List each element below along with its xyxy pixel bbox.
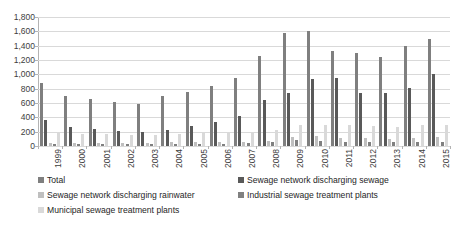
bar [287, 93, 290, 146]
bar-group [135, 17, 159, 146]
x-axis-tick-label: 2015 [442, 149, 451, 168]
bar-group [208, 17, 232, 146]
bar [408, 88, 411, 146]
bar [44, 120, 47, 146]
bar-group [426, 17, 450, 146]
bar [238, 116, 241, 146]
bar-group [183, 17, 207, 146]
bar [49, 143, 52, 146]
bar [202, 132, 205, 146]
y-axis-tick-label: 1,200 [1, 56, 35, 65]
bar [379, 57, 382, 146]
x-axis-tick-label: 2010 [321, 149, 330, 168]
y-axis-tick-label: 400 [1, 113, 35, 122]
bar [126, 144, 129, 146]
bar [137, 104, 140, 146]
legend-item[interactable]: Sewage network discharging rainwater [38, 191, 195, 200]
y-axis-tick-mark [35, 117, 38, 118]
bar [412, 138, 415, 146]
legend-item-label: Sewage network discharging sewage [247, 176, 389, 185]
bar [113, 102, 116, 146]
bar [81, 134, 84, 146]
legend-swatch-icon [238, 177, 244, 183]
bar [396, 127, 399, 146]
legend-item[interactable]: Industrial sewage treatment plants [238, 191, 378, 200]
bar [73, 143, 76, 146]
y-axis-tick-mark [35, 31, 38, 32]
chart-legend: TotalSewage network discharging sewageSe… [0, 176, 463, 222]
bar [53, 144, 56, 146]
bar [315, 136, 318, 146]
x-axis-tick-mark [305, 146, 306, 149]
x-axis-tick-mark [135, 146, 136, 149]
bar [93, 129, 96, 146]
y-axis-tick-label: 1,800 [1, 13, 35, 22]
bar-group [62, 17, 86, 146]
bar-group [402, 17, 426, 146]
legend-item-label: Industrial sewage treatment plants [247, 191, 378, 200]
bar [368, 142, 371, 146]
bar [198, 144, 201, 146]
bar [251, 132, 254, 146]
x-axis-tick-mark [86, 146, 87, 149]
x-axis: 1999200020012002200320042005200620072008… [38, 149, 450, 175]
gridline [38, 146, 450, 147]
y-axis-tick-label: 1,400 [1, 41, 35, 50]
legend-item-label: Total [47, 176, 65, 185]
x-axis-tick-mark [450, 146, 451, 149]
bar [441, 142, 444, 146]
bar [263, 100, 266, 146]
bar-group [111, 17, 135, 146]
x-axis-tick-mark [159, 146, 160, 149]
bar [178, 134, 181, 146]
bar [445, 125, 448, 147]
y-axis-tick-label: 0 [1, 142, 35, 151]
bar [64, 96, 67, 146]
bar [324, 125, 327, 147]
x-axis-tick-mark [256, 146, 257, 149]
legend-swatch-icon [38, 192, 44, 198]
bar [331, 51, 334, 146]
bars-layer [38, 17, 450, 146]
bar [299, 125, 302, 146]
x-axis-tick-mark [183, 146, 184, 149]
y-axis: 1,8001,6001,4001,2001,0008006004002000 [0, 17, 35, 146]
legend-item[interactable]: Total [38, 176, 65, 185]
y-axis-tick-mark [35, 60, 38, 61]
bar [190, 126, 193, 146]
legend-item[interactable]: Municipal sewage treatment plants [38, 206, 179, 215]
bar [161, 96, 164, 146]
bar [319, 141, 322, 146]
bar-group [232, 17, 256, 146]
x-axis-tick-label: 2004 [175, 149, 184, 168]
y-axis-tick-mark [35, 46, 38, 47]
bar [77, 144, 80, 146]
bar [170, 142, 173, 146]
bar [214, 122, 217, 146]
bar [186, 92, 189, 146]
bar [307, 31, 310, 146]
x-axis-tick-mark [280, 146, 281, 149]
x-axis-tick-label: 1999 [54, 149, 63, 168]
bar [218, 142, 221, 146]
bar [283, 33, 286, 146]
x-axis-tick-label: 2001 [103, 149, 112, 168]
legend-item-label: Sewage network discharging rainwater [47, 191, 195, 200]
bar [154, 135, 157, 146]
bar [275, 130, 278, 146]
bar [372, 126, 375, 146]
bar [97, 143, 100, 146]
x-axis-tick-mark [38, 146, 39, 149]
x-axis-tick-label: 2014 [418, 149, 427, 168]
x-axis-tick-label: 2008 [272, 149, 281, 168]
bar [69, 127, 72, 146]
bar-group [280, 17, 304, 146]
x-axis-tick-mark [208, 146, 209, 149]
bar [89, 99, 92, 146]
legend-item[interactable]: Sewage network discharging sewage [238, 176, 389, 185]
bar [194, 142, 197, 146]
x-axis-tick-label: 2003 [151, 149, 160, 168]
bar [57, 132, 60, 146]
bar [258, 56, 261, 146]
bar [117, 131, 120, 146]
